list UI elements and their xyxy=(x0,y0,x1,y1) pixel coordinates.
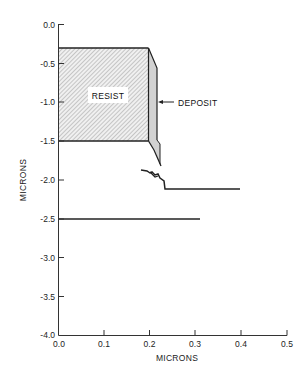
y-tick-label: -2.5 xyxy=(40,214,55,224)
x-tick-label: 0.0 xyxy=(53,339,65,349)
resist-label: RESIST xyxy=(92,91,125,101)
y-tick-label: -1.5 xyxy=(40,136,55,146)
x-axis-title: MICRONS xyxy=(156,353,198,363)
y-tick-label: -1.0 xyxy=(40,97,55,107)
y-tick-label: -3.5 xyxy=(40,292,55,302)
y-axis-title: MICRONS xyxy=(18,159,28,201)
y-tick-label: -2.0 xyxy=(40,175,55,185)
deposit-region xyxy=(149,48,162,166)
y-axis: 0.0 -0.5 -1.0 -1.5 -2.0 -2.5 -3.0 -3.5 -… xyxy=(18,20,64,341)
chart: RESIST DEPOSIT 0.0 -0.5 -1.0 -1.5 -2.0 xyxy=(0,0,300,383)
x-tick-label: 0.3 xyxy=(189,339,201,349)
y-tick-label: 0.0 xyxy=(43,20,55,30)
profile-series xyxy=(141,170,240,189)
x-tick-label: 0.1 xyxy=(98,339,110,349)
x-tick-label: 0.4 xyxy=(235,339,247,349)
x-tick-label: 0.2 xyxy=(144,339,156,349)
deposit-label: DEPOSIT xyxy=(178,98,217,108)
resist-region: RESIST xyxy=(59,48,149,141)
y-tick-label: -0.5 xyxy=(40,59,55,69)
x-axis: 0.0 0.1 0.2 0.3 0.4 0.5 MICRONS xyxy=(53,330,293,363)
x-tick-label: 0.5 xyxy=(281,339,293,349)
deposit-annotation: DEPOSIT xyxy=(158,98,217,108)
y-tick-label: -3.0 xyxy=(40,253,55,263)
